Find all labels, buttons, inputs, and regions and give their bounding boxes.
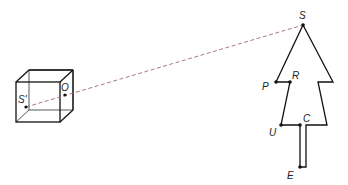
cube-edge-bottom-right (60, 110, 73, 122)
label-P: P (262, 81, 269, 92)
points (24, 23, 304, 169)
label-O: O (61, 82, 69, 93)
arrow-object (276, 25, 333, 167)
label-E: E (287, 170, 294, 181)
label-U: U (269, 127, 277, 138)
label-C: C (303, 113, 311, 124)
point-S (301, 23, 305, 27)
point-O (63, 93, 66, 96)
label-S-prime: S' (18, 94, 28, 105)
cube-edge-top-right (60, 70, 73, 82)
light-ray (26, 25, 303, 107)
point-S-prime (24, 105, 27, 108)
point-P (274, 80, 278, 84)
point-E (298, 165, 302, 169)
point-U (279, 123, 283, 127)
label-S: S (299, 10, 306, 21)
point-C (298, 123, 302, 127)
pinhole-diagram: S S' O P R U C E (0, 0, 348, 185)
label-R: R (292, 70, 299, 81)
cube-edge-hidden (16, 110, 29, 122)
cube-edge-top-left (16, 70, 29, 82)
